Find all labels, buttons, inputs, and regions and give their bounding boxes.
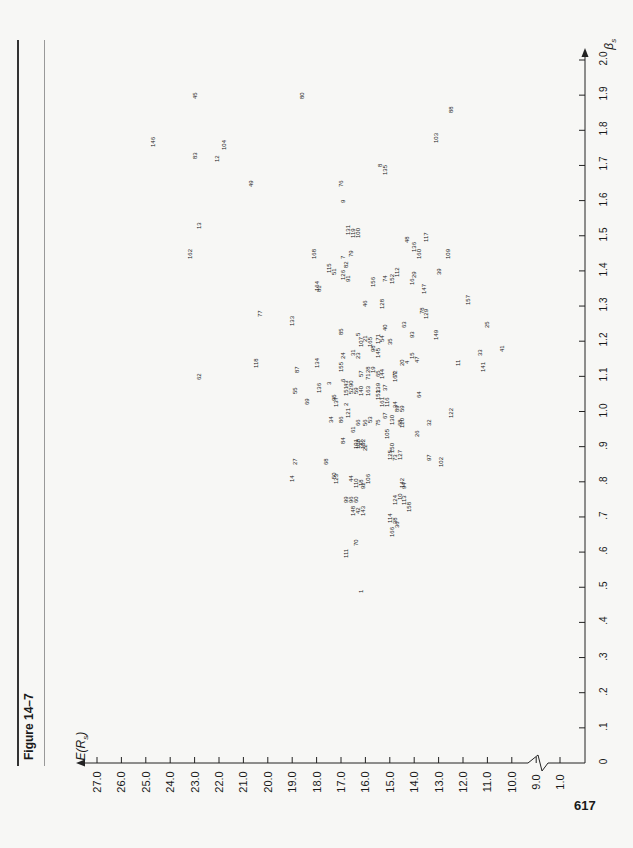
data-point-label: 47 — [414, 355, 420, 363]
data-point-label: 84 — [340, 436, 346, 444]
data-point-label: 117 — [423, 230, 429, 242]
data-point-label: 147 — [421, 282, 427, 294]
data-point-label: 54 — [379, 334, 385, 342]
x-tick-label: .3 — [598, 643, 609, 669]
x-tick-label: .9 — [598, 432, 609, 458]
data-point-label: 103 — [433, 131, 439, 143]
data-point-label: 130 — [389, 413, 395, 425]
data-point-label: 80 — [299, 91, 305, 99]
x-tick-label: 1.8 — [598, 116, 609, 142]
data-point-label: 16 — [409, 277, 415, 285]
data-point-label: 86 — [338, 415, 344, 423]
x-tick-label: .6 — [598, 538, 609, 564]
book-page: Figure 14–7 27.026.025.024.023.022.021.0… — [0, 0, 633, 848]
data-point-label: 24 — [340, 351, 346, 359]
data-point-label: 83 — [192, 151, 198, 159]
y-tick-label: 10.0 — [506, 767, 518, 797]
data-point-label: 36 — [394, 520, 400, 528]
y-tick-label: 14.0 — [408, 767, 420, 797]
data-point-label: 135 — [382, 163, 388, 175]
x-tick-label: .1 — [598, 713, 609, 739]
data-point-label: 71 — [365, 372, 371, 380]
data-point-label: 22 — [362, 443, 368, 451]
data-point-label: 136 — [316, 381, 322, 393]
data-point-label: 145 — [375, 346, 381, 358]
data-point-label: 158 — [406, 500, 412, 512]
data-point-label: 116 — [384, 395, 390, 407]
data-point-label: 69 — [304, 397, 310, 405]
y-tick-label: 18.0 — [311, 767, 323, 797]
x-tick-label: 0 — [598, 749, 609, 775]
y-tick-label: 25.0 — [140, 767, 152, 797]
data-point-label: 106 — [365, 472, 371, 484]
data-point-label: 39 — [436, 267, 442, 275]
data-point-label: 109 — [445, 247, 451, 259]
x-tick-label: 1.6 — [598, 186, 609, 212]
data-point-label: 157 — [465, 293, 471, 305]
data-point-label: 26 — [414, 429, 420, 437]
data-point-label: 111 — [343, 546, 349, 558]
data-point-label: 4 — [404, 360, 410, 364]
data-point-label: 61 — [350, 425, 356, 433]
y-tick-label: 16.0 — [359, 767, 371, 797]
data-point-label: 102 — [438, 455, 444, 467]
data-point-label: 144 — [379, 367, 385, 379]
data-point-label: 76 — [338, 179, 344, 187]
data-point-label: 133 — [289, 314, 295, 326]
data-point-label: 128 — [379, 297, 385, 309]
data-point-label: 141 — [480, 360, 486, 372]
data-point-label: 63 — [401, 320, 407, 328]
data-point-label: 27 — [292, 457, 298, 465]
data-point-label: 46 — [362, 299, 368, 307]
data-point-label: 64 — [416, 390, 422, 398]
y-tick-label: 23.0 — [189, 767, 201, 797]
x-tick-label: .4 — [598, 608, 609, 634]
y-tick-label: 13.0 — [433, 767, 445, 797]
data-point-label: 85 — [338, 327, 344, 335]
data-point-label: 41 — [499, 344, 505, 352]
data-point-label: 105 — [384, 427, 390, 439]
data-point-label: 34 — [328, 415, 334, 423]
data-point-label: 88 — [448, 105, 454, 113]
x-tick-label: .7 — [598, 502, 609, 528]
data-point-label: 45 — [192, 91, 198, 99]
y-tick-label: 1.0 — [554, 767, 566, 797]
data-point-label: 73 — [392, 453, 398, 461]
data-point-label: 163 — [365, 384, 371, 396]
data-point-label: 149 — [433, 328, 439, 340]
data-point-label: 143 — [360, 504, 366, 516]
data-point-label: 37 — [382, 383, 388, 391]
data-point-label: 168 — [311, 247, 317, 259]
data-point-label: 120 — [399, 416, 405, 428]
x-tick-label: 1.2 — [598, 327, 609, 353]
data-point-label: 49 — [248, 179, 254, 187]
data-point-label: 152 — [389, 272, 395, 284]
data-point-label: 55 — [292, 386, 298, 394]
data-point-label: 33 — [477, 348, 483, 356]
data-point-label: 121 — [345, 406, 351, 418]
data-point-label: 123 — [333, 472, 339, 484]
y-tick-label: 19.0 — [286, 767, 298, 797]
data-point-label: 11 — [455, 358, 461, 366]
data-point-label: 82 — [343, 260, 349, 268]
data-point-label: 166 — [389, 525, 395, 537]
data-point-label: 118 — [253, 356, 259, 368]
data-point-label: 60 — [353, 495, 359, 503]
data-point-label: 112 — [394, 265, 400, 277]
x-tick-label: 1.4 — [598, 256, 609, 282]
data-point-label: 94 — [401, 481, 407, 489]
data-point-label: 167 — [392, 370, 398, 382]
page-number: 617 — [574, 798, 596, 813]
chart-axes — [0, 0, 633, 848]
data-point-label: 51 — [331, 267, 337, 275]
y-tick-label: 15.0 — [384, 767, 396, 797]
data-point-label: 93 — [409, 330, 415, 338]
data-point-label: 74 — [382, 274, 388, 282]
data-point-label: 75 — [375, 418, 381, 426]
x-tick-label: .2 — [598, 678, 609, 704]
data-point-label: 81 — [316, 284, 322, 292]
data-point-label: 57 — [358, 369, 364, 377]
data-point-label: 14 — [289, 474, 295, 482]
data-point-label: 77 — [257, 309, 263, 317]
x-tick-label: .5 — [598, 573, 609, 599]
